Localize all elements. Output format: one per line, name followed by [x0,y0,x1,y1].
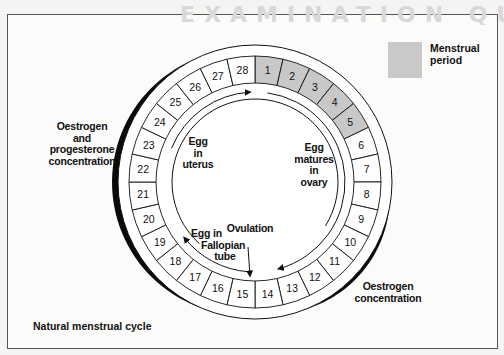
day-number: 20 [143,213,155,225]
day-number: 24 [154,116,166,128]
oestrogen-label: Oestrogen concentration [346,281,430,304]
day-number: 28 [237,64,249,76]
label-line: Egg [178,136,218,148]
menstrual-period-swatch [388,42,422,78]
label-line: Oestrogen [346,281,430,293]
label-line: progesterone [40,144,124,156]
label-line: in [290,165,338,177]
day-number: 6 [358,139,364,151]
day-number: 3 [312,81,318,93]
day-number: 15 [237,288,249,300]
egg-matures-label: Egg matures in ovary [290,142,338,188]
label-line: concentration [40,156,124,168]
day-number: 2 [289,70,295,82]
day-number: 10 [344,236,356,248]
day-number: 13 [286,282,298,294]
egg-fallopian-label: Egg in Fallopian tube [191,228,237,263]
legend-line-1: Menstrual [430,42,480,54]
oestrogen-progesterone-label: Oestrogen and progesterone concentration [40,121,124,167]
label-line: Egg in [191,228,237,240]
day-number: 1 [265,64,271,76]
day-number: 14 [262,288,274,300]
label-line: uterus [178,159,218,171]
day-number: 16 [212,282,224,294]
day-number: 23 [143,139,155,151]
day-number: 21 [137,188,149,200]
label-line: Oestrogen [40,121,124,133]
day-number: 8 [364,188,370,200]
diagram-caption: Natural menstrual cycle [33,320,151,332]
legend-label: Menstrual period [430,42,480,66]
day-number: 4 [332,96,338,108]
day-number: 11 [329,255,340,267]
label-line: concentration [346,293,430,305]
day-number: 19 [154,236,166,248]
label-line: tube [191,251,237,263]
day-number: 5 [347,116,353,128]
day-number: 27 [212,70,224,82]
day-number: 17 [189,271,201,283]
day-number: 25 [170,96,182,108]
legend-line-2: period [430,54,480,66]
day-number: 12 [309,271,321,283]
egg-in-uterus-label: Egg in uterus [178,136,218,171]
label-line: Egg [290,142,338,154]
label-line: ovary [290,177,338,189]
day-number: 26 [189,81,201,93]
day-number: 9 [358,213,364,225]
day-number: 18 [170,255,182,267]
day-number: 22 [137,163,149,175]
day-number: 7 [364,163,370,175]
